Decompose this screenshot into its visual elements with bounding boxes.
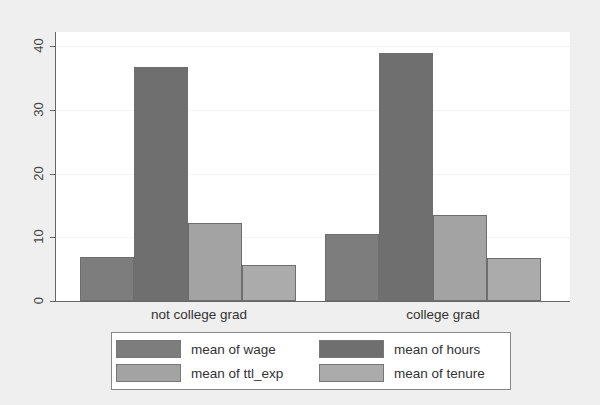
legend-item-tenure: mean of tenure [319, 364, 485, 382]
y-axis-line [55, 32, 56, 302]
y-tick-label: 20 [31, 163, 46, 183]
legend-label-hours: mean of hours [394, 342, 480, 357]
category-label-college-grad: college grad [343, 307, 543, 322]
y-tick-label: 40 [31, 36, 46, 56]
bar [188, 223, 242, 301]
category-label-not-college-grad: not college grad [99, 307, 299, 322]
bar [433, 215, 487, 301]
gridline [56, 46, 570, 47]
bar [134, 67, 188, 301]
legend-swatch-ttl-exp [116, 364, 181, 382]
y-tick [50, 46, 55, 47]
y-tick [50, 237, 55, 238]
legend-item-wage: mean of wage [116, 340, 276, 358]
bar [80, 257, 134, 301]
y-tick-label: 30 [31, 99, 46, 119]
legend-swatch-hours [319, 340, 384, 358]
y-tick [50, 301, 55, 302]
legend-label-tenure: mean of tenure [394, 366, 485, 381]
x-axis-line [55, 301, 570, 302]
legend-item-hours: mean of hours [319, 340, 480, 358]
y-tick [50, 174, 55, 175]
bar [325, 234, 379, 301]
bar [379, 53, 433, 301]
legend-label-ttl-exp: mean of ttl_exp [191, 366, 283, 381]
y-tick-label: 10 [31, 227, 46, 247]
legend-swatch-tenure [319, 364, 384, 382]
bar [487, 258, 541, 301]
legend-swatch-wage [116, 340, 181, 358]
legend-item-ttl-exp: mean of ttl_exp [116, 364, 283, 382]
legend: mean of wage mean of hours mean of ttl_e… [111, 332, 511, 390]
y-tick-label: 0 [31, 291, 46, 311]
bar [242, 265, 296, 301]
legend-label-wage: mean of wage [191, 342, 276, 357]
y-tick [50, 110, 55, 111]
